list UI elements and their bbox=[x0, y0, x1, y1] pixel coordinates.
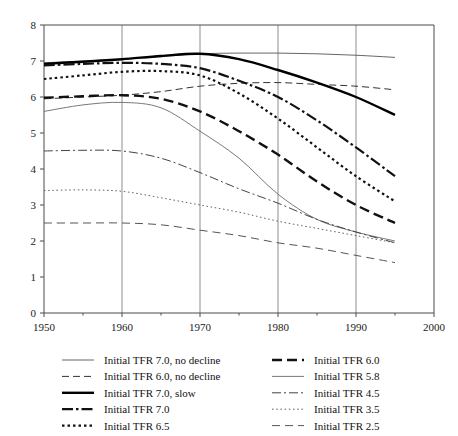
chart-legend: Initial TFR 7.0, no declineInitial TFR 6… bbox=[62, 354, 380, 432]
grid-lines bbox=[122, 25, 356, 313]
chart-container: 012345678 195019601970198019902000 Initi… bbox=[0, 0, 458, 436]
series-line-6 bbox=[44, 102, 395, 241]
legend-label-right-4: Initial TFR 2.5 bbox=[314, 420, 380, 432]
y-tick-label-7: 7 bbox=[31, 55, 37, 67]
legend-label-right-1: Initial TFR 5.8 bbox=[314, 370, 380, 382]
x-tick-label-1990: 1990 bbox=[345, 321, 368, 333]
y-tick-label-3: 3 bbox=[31, 199, 37, 211]
y-axis-tick-labels: 012345678 bbox=[31, 19, 45, 319]
legend-label-left-4: Initial TFR 6.5 bbox=[104, 420, 170, 432]
legend-label-right-3: Initial TFR 3.5 bbox=[314, 403, 380, 415]
x-axis-tick-labels: 195019601970198019902000 bbox=[33, 313, 446, 333]
x-tick-label-1960: 1960 bbox=[111, 321, 134, 333]
data-series bbox=[44, 53, 395, 263]
y-tick-label-1: 1 bbox=[31, 271, 37, 283]
x-tick-label-1950: 1950 bbox=[33, 321, 56, 333]
tfr-line-chart: 012345678 195019601970198019902000 Initi… bbox=[0, 0, 458, 436]
y-tick-label-6: 6 bbox=[31, 91, 37, 103]
series-line-5 bbox=[44, 95, 395, 223]
legend-label-left-0: Initial TFR 7.0, no decline bbox=[104, 354, 221, 366]
y-tick-label-8: 8 bbox=[31, 19, 37, 31]
y-tick-label-0: 0 bbox=[31, 307, 37, 319]
legend-label-left-1: Initial TFR 6.0, no decline bbox=[104, 370, 221, 382]
legend-label-left-3: Initial TFR 7.0 bbox=[104, 403, 170, 415]
x-tick-label-1980: 1980 bbox=[267, 321, 290, 333]
legend-label-right-2: Initial TFR 4.5 bbox=[314, 387, 380, 399]
x-tick-label-2000: 2000 bbox=[423, 321, 446, 333]
legend-label-right-0: Initial TFR 6.0 bbox=[314, 354, 380, 366]
y-tick-label-4: 4 bbox=[31, 163, 37, 175]
series-line-3 bbox=[44, 63, 395, 176]
y-tick-label-5: 5 bbox=[31, 127, 37, 139]
axes bbox=[44, 25, 434, 313]
x-tick-label-1970: 1970 bbox=[189, 321, 212, 333]
legend-label-left-2: Initial TFR 7.0, slow bbox=[104, 387, 196, 399]
y-tick-label-2: 2 bbox=[31, 235, 37, 247]
series-line-9 bbox=[44, 223, 395, 263]
